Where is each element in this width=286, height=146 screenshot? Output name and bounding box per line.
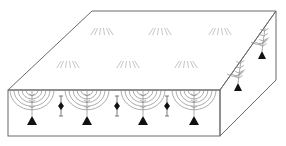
slab-sensor-diagram <box>0 0 286 146</box>
antenna-stem <box>262 28 265 51</box>
surface-mark <box>117 61 140 68</box>
front-face <box>8 90 220 136</box>
sensor-node-icon <box>258 51 266 59</box>
diamond-marker-icon <box>115 96 120 116</box>
surface-mark <box>175 61 198 68</box>
top-face <box>8 11 276 90</box>
side-sensor-group <box>251 28 269 59</box>
wave-arc-group <box>172 90 216 116</box>
side-sensor-group <box>227 60 245 91</box>
front-sensor-nodes <box>27 116 199 125</box>
sensor-node-icon <box>234 83 242 91</box>
surface-mark <box>57 61 80 68</box>
wave-arc-group <box>121 90 165 116</box>
slab-outline <box>8 11 276 136</box>
surface-mark <box>209 28 232 35</box>
diamond-marker-icon <box>59 96 64 116</box>
sensor-node-icon <box>189 116 199 125</box>
side-face <box>220 11 276 136</box>
surface-wave-marks <box>57 28 232 68</box>
diamond-marker-icon <box>165 96 170 116</box>
sensor-node-icon <box>138 116 148 125</box>
surface-mark <box>149 28 172 35</box>
sensor-node-icon <box>27 116 37 125</box>
sensor-node-icon <box>82 116 92 125</box>
surface-mark <box>91 28 114 35</box>
wave-arc-group <box>65 90 109 116</box>
front-wave-arcs <box>10 90 216 116</box>
side-sensor-nodes <box>227 28 269 91</box>
wave-arc-group <box>10 90 54 116</box>
